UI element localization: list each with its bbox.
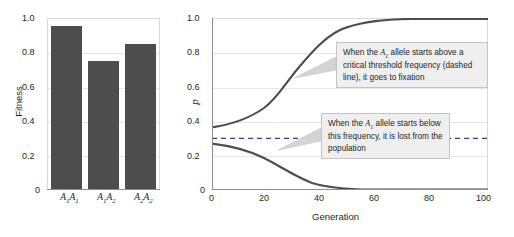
- p-ytick-0.4: 0.4: [187, 116, 200, 126]
- gen-xtick-20: 20: [259, 193, 269, 203]
- callout-below-threshold: When the A1 allele starts below this fre…: [321, 113, 450, 159]
- figure-container: Fitness 1.0 0.8 0.6 0.4 0.2 0 A1A1 A1A2 …: [0, 0, 514, 237]
- fitness-ytick-0.4: 0.4: [22, 116, 35, 126]
- callout-1-line-1-pre: When the: [343, 48, 380, 57]
- fitness-ytick-0: 0: [35, 185, 40, 195]
- p-ytick-0.6: 0.6: [187, 82, 200, 92]
- p-ytick-0.2: 0.2: [187, 151, 200, 161]
- p-x-axis-line: [212, 189, 488, 190]
- fitness-bar-A2A2: [125, 44, 156, 190]
- fitness-bar-A1A1: [51, 26, 82, 190]
- allele-frequency-panel: p 1.0 0.8 0.6 0.4 0.2 0 0 20 40 60 80 10…: [190, 0, 514, 237]
- gen-xtick-60: 60: [369, 193, 379, 203]
- fitness-ytick-0.2: 0.2: [22, 151, 35, 161]
- bar-label-A1A1: A1A1: [51, 192, 88, 205]
- fitness-ytick-0.8: 0.8: [22, 47, 35, 57]
- fitness-x-axis-line: [47, 189, 160, 190]
- bar-label-A1A2: A1A2: [88, 192, 125, 205]
- callout-2-line-1-pre: When the: [328, 119, 365, 128]
- p-ytick-0.8: 0.8: [187, 47, 200, 57]
- callout-2-line-1-post: allele starts: [373, 119, 417, 128]
- fitness-bar-A1A2: [88, 61, 119, 190]
- callout-1-line-1-post: allele starts above: [388, 48, 456, 57]
- fitness-ytick-1.0: 1.0: [22, 13, 35, 23]
- callout-above-threshold: When the A1 allele starts above a critic…: [336, 42, 488, 88]
- gen-xtick-0: 0: [209, 193, 214, 203]
- generation-axis-label: Generation: [312, 211, 359, 222]
- bar-label-A2A2: A2A2: [125, 192, 162, 205]
- gen-xtick-80: 80: [424, 193, 434, 203]
- p-ytick-0: 0: [200, 185, 205, 195]
- gen-xtick-40: 40: [314, 193, 324, 203]
- p-ytick-1.0: 1.0: [187, 13, 200, 23]
- fitness-bar-chart-panel: Fitness 1.0 0.8 0.6 0.4 0.2 0 A1A1 A1A2 …: [0, 0, 190, 237]
- p-y-axis-line: [212, 18, 213, 190]
- fitness-ytick-0.6: 0.6: [22, 82, 35, 92]
- gen-xtick-100: 100: [476, 193, 491, 203]
- fitness-bars-group: [47, 18, 160, 190]
